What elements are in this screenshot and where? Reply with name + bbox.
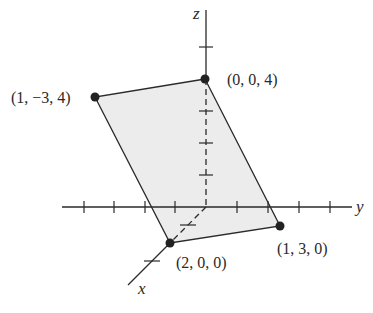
label-point-2-0-0: (2, 0, 0) bbox=[176, 254, 227, 272]
y-axis-label: y bbox=[354, 197, 364, 216]
3d-plane-diagram: (1, −3, 4) (0, 0, 4) (1, 3, 0) (2, 0, 0)… bbox=[0, 0, 373, 313]
point-0-0-4 bbox=[201, 75, 210, 84]
label-point-1-3-0: (1, 3, 0) bbox=[277, 240, 328, 258]
label-point-0-0-4: (0, 0, 4) bbox=[227, 71, 278, 89]
point-1-3-0 bbox=[276, 222, 285, 231]
point-2-0-0 bbox=[166, 239, 175, 248]
x-axis-label: x bbox=[137, 279, 146, 298]
plane-face bbox=[95, 79, 280, 243]
x-axis-solid bbox=[128, 243, 170, 285]
point-1-neg3-4 bbox=[91, 93, 100, 102]
label-point-1-neg3-4: (1, −3, 4) bbox=[11, 89, 71, 107]
z-axis-label: z bbox=[192, 4, 200, 23]
